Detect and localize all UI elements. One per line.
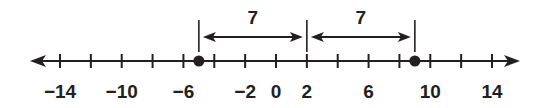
tick-label: 14 <box>481 81 503 102</box>
point-dot <box>193 56 204 67</box>
distance-label: 7 <box>248 7 259 28</box>
tick-label: 6 <box>363 81 374 102</box>
tick-label: −10 <box>106 81 138 102</box>
point-dot <box>409 56 420 67</box>
tick-labels: −14−10−6−20261014 <box>44 81 503 102</box>
distance-label: 7 <box>356 7 367 28</box>
tick-label: −14 <box>44 81 77 102</box>
tick-label: −6 <box>173 81 195 102</box>
tick-label: 2 <box>302 81 313 102</box>
number-line-diagram: −14−10−6−20261014 77 <box>0 0 546 108</box>
tick-label: −2 <box>234 81 256 102</box>
tick-label: 0 <box>271 81 282 102</box>
distance-brackets: 77 <box>199 7 415 52</box>
tick-label: 10 <box>420 81 441 102</box>
